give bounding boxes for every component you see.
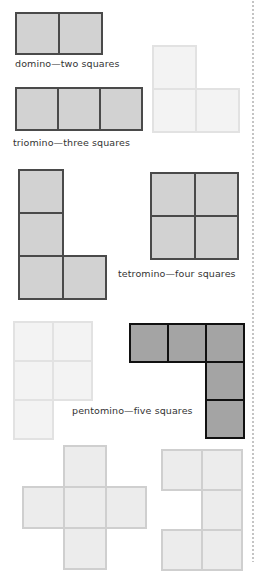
square [18,212,64,257]
square [150,215,196,260]
dotted-page-edge [252,0,254,562]
square [15,12,60,55]
square [194,215,239,260]
triomino-label: triomino—three squares [13,137,130,148]
square [105,486,147,529]
square [13,360,54,401]
square [62,255,107,300]
square [201,489,243,531]
square [129,323,170,363]
square [13,399,54,440]
square [167,323,208,363]
square [205,399,245,439]
square [13,321,54,362]
square [201,449,243,491]
square [150,172,196,217]
square [57,87,101,131]
square [161,449,203,491]
square [194,172,239,217]
square [15,87,59,131]
pentomino-label: pentomino—five squares [72,405,193,416]
square [18,169,64,214]
square [152,88,197,133]
square [201,529,243,571]
square [52,360,93,401]
square [152,45,197,90]
square [52,321,93,362]
square [63,486,107,529]
square [63,445,107,488]
square [205,361,245,401]
square [18,255,64,300]
tetromino-label: tetromino—four squares [118,268,236,279]
square [99,87,143,131]
square [195,88,240,133]
square [205,323,245,363]
square [22,486,65,529]
square [161,529,203,571]
square [58,12,103,55]
domino-label: domino—two squares [15,58,120,69]
square [63,527,107,570]
